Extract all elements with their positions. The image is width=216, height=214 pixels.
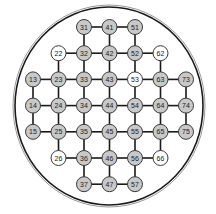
node-47: 47 [102, 177, 117, 192]
node-label: 42 [106, 50, 114, 57]
node-43: 43 [102, 72, 117, 87]
node-55: 55 [128, 124, 143, 139]
node-label: 75 [182, 128, 190, 135]
node-label: 33 [80, 76, 88, 83]
node-63: 63 [153, 72, 168, 87]
node-54: 54 [128, 98, 143, 113]
node-label: 63 [157, 76, 165, 83]
node-label: 13 [29, 76, 37, 83]
node-36: 36 [77, 151, 92, 166]
node-label: 65 [157, 128, 165, 135]
node-label: 62 [157, 50, 165, 57]
grid-nodes: 3141512232425262132333435363731424344454… [26, 20, 194, 192]
node-label: 31 [80, 24, 88, 31]
node-label: 23 [55, 76, 63, 83]
node-42: 42 [102, 46, 117, 61]
node-56: 56 [128, 151, 143, 166]
node-label: 37 [80, 181, 88, 188]
node-32: 32 [77, 46, 92, 61]
node-22: 22 [51, 46, 66, 61]
node-label: 51 [131, 24, 139, 31]
node-label: 52 [131, 50, 139, 57]
node-57: 57 [128, 177, 143, 192]
node-74: 74 [179, 98, 194, 113]
node-label: 15 [29, 128, 37, 135]
node-label: 54 [131, 102, 139, 109]
node-label: 46 [106, 155, 114, 162]
node-label: 25 [55, 128, 63, 135]
node-13: 13 [26, 72, 41, 87]
node-label: 43 [106, 76, 114, 83]
node-label: 56 [131, 155, 139, 162]
node-31: 31 [77, 20, 92, 35]
node-label: 53 [131, 76, 139, 83]
node-label: 35 [80, 128, 88, 135]
node-label: 32 [80, 50, 88, 57]
node-label: 45 [106, 128, 114, 135]
node-label: 14 [29, 102, 37, 109]
node-label: 34 [80, 102, 88, 109]
node-33: 33 [77, 72, 92, 87]
node-26: 26 [51, 151, 66, 166]
node-label: 66 [157, 155, 165, 162]
node-14: 14 [26, 98, 41, 113]
node-label: 24 [55, 102, 63, 109]
node-23: 23 [51, 72, 66, 87]
node-73: 73 [179, 72, 194, 87]
node-46: 46 [102, 151, 117, 166]
node-35: 35 [77, 124, 92, 139]
node-24: 24 [51, 98, 66, 113]
node-37: 37 [77, 177, 92, 192]
node-34: 34 [77, 98, 92, 113]
node-65: 65 [153, 124, 168, 139]
node-label: 64 [157, 102, 165, 109]
node-44: 44 [102, 98, 117, 113]
node-label: 55 [131, 128, 139, 135]
node-label: 22 [55, 50, 63, 57]
node-75: 75 [179, 124, 194, 139]
node-label: 47 [106, 181, 114, 188]
node-label: 36 [80, 155, 88, 162]
wafer-grid-diagram: 3141512232425262132333435363731424344454… [0, 0, 216, 214]
node-45: 45 [102, 124, 117, 139]
node-label: 73 [182, 76, 190, 83]
node-41: 41 [102, 20, 117, 35]
node-label: 44 [106, 102, 114, 109]
node-66: 66 [153, 151, 168, 166]
node-52: 52 [128, 46, 143, 61]
node-51: 51 [128, 20, 143, 35]
node-15: 15 [26, 124, 41, 139]
node-64: 64 [153, 98, 168, 113]
node-label: 41 [106, 24, 114, 31]
node-62: 62 [153, 46, 168, 61]
node-label: 74 [182, 102, 190, 109]
node-label: 26 [55, 155, 63, 162]
node-label: 57 [131, 181, 139, 188]
node-53: 53 [128, 72, 143, 87]
node-25: 25 [51, 124, 66, 139]
